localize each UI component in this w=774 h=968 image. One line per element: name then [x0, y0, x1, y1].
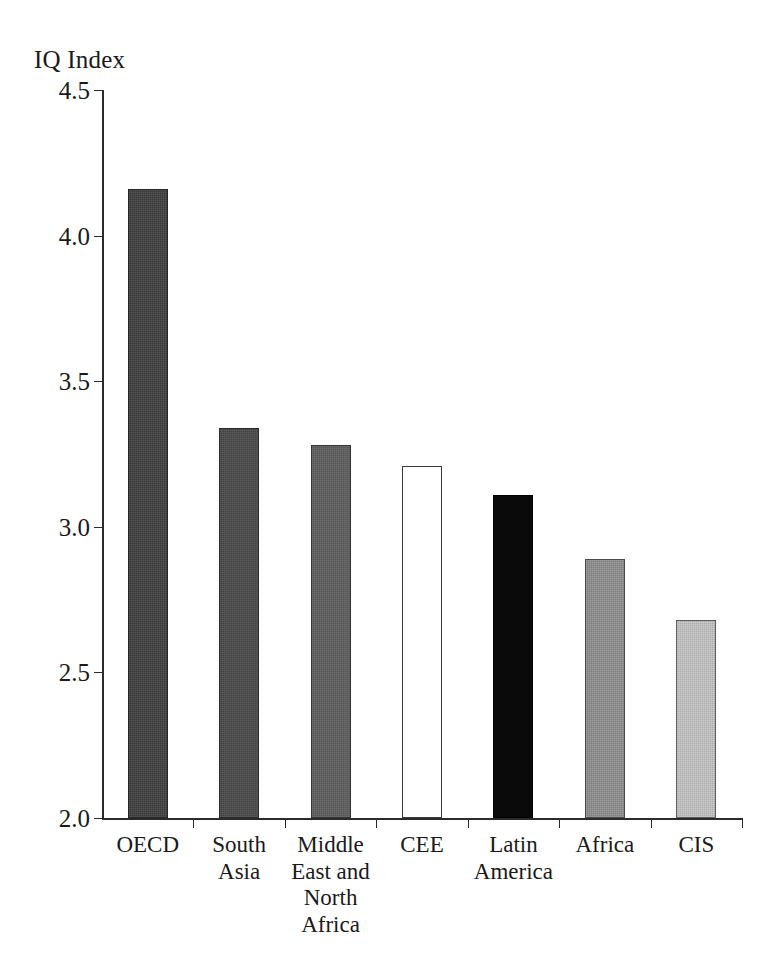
- x-category-label: CIS: [651, 832, 742, 859]
- x-category-label: OECD: [102, 832, 193, 859]
- x-category-label: Latin America: [468, 832, 559, 885]
- y-axis-title: IQ Index: [34, 46, 125, 74]
- plot-area: 2.02.53.03.54.04.5 OECDSouth AsiaMiddle …: [102, 90, 742, 818]
- y-tick-mark: [94, 672, 104, 673]
- x-tick-mark: [742, 818, 743, 828]
- y-tick-label: 3.0: [59, 514, 90, 539]
- x-tick-mark: [376, 818, 377, 828]
- bar: [311, 445, 351, 818]
- bar: [585, 559, 625, 818]
- x-axis-line: [102, 818, 742, 820]
- iq-index-bar-chart: IQ Index 2.02.53.03.54.04.5 OECDSouth As…: [0, 0, 774, 968]
- y-tick-mark: [94, 236, 104, 237]
- y-tick-mark: [94, 381, 104, 382]
- bar: [493, 495, 533, 818]
- x-tick-mark: [651, 818, 652, 828]
- y-tick-label: 4.5: [59, 78, 90, 103]
- x-category-label: CEE: [376, 832, 467, 859]
- x-category-label: Africa: [559, 832, 650, 859]
- bar: [676, 620, 716, 818]
- y-axis-line: [102, 90, 104, 818]
- y-tick-label: 4.0: [59, 223, 90, 248]
- x-category-label: Middle East and North Africa: [285, 832, 376, 939]
- x-tick-mark: [468, 818, 469, 828]
- y-tick-label: 2.5: [59, 660, 90, 685]
- y-tick-label: 2.0: [59, 806, 90, 831]
- y-tick-mark: [94, 90, 104, 91]
- x-category-label: South Asia: [193, 832, 284, 885]
- x-tick-mark: [193, 818, 194, 828]
- bar: [128, 189, 168, 818]
- x-tick-mark: [285, 818, 286, 828]
- bar: [402, 466, 442, 818]
- y-tick-mark: [94, 527, 104, 528]
- y-tick-label: 3.5: [59, 369, 90, 394]
- y-tick-mark: [94, 818, 104, 819]
- x-tick-mark: [559, 818, 560, 828]
- bar: [219, 428, 259, 818]
